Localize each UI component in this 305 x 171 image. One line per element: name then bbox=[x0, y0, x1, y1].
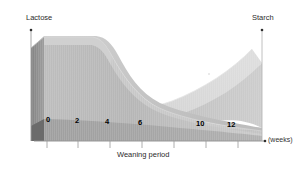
x-axis bbox=[34, 140, 266, 148]
scan-speck bbox=[208, 73, 209, 74]
x-axis-title: Weaning period bbox=[117, 151, 169, 159]
chart-container: Lactose Starch (weeks) Weaning period 02… bbox=[0, 0, 305, 171]
x-tick-label: 2 bbox=[75, 117, 79, 125]
right-axis-title: Starch bbox=[252, 14, 274, 22]
x-tick-label: 12 bbox=[227, 121, 235, 129]
x-tick-label: 0 bbox=[46, 116, 50, 124]
x-axis-unit-label: (weeks) bbox=[268, 136, 293, 143]
chart-canvas bbox=[0, 0, 305, 171]
x-tick-label: 4 bbox=[105, 118, 109, 126]
left-axis-title: Lactose bbox=[26, 14, 52, 22]
x-tick-label: 6 bbox=[138, 119, 142, 127]
x-tick-label: 10 bbox=[196, 120, 204, 128]
